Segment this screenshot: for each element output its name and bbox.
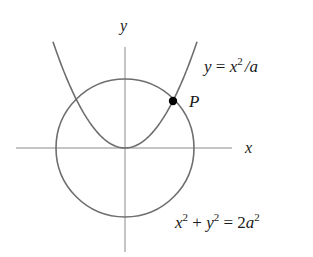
circle-eq-a-exponent: 2 [254, 211, 260, 223]
parabola-equation-label: y = x2/a [202, 55, 258, 76]
parabola-eq-x-exponent: 2 [237, 55, 243, 67]
circle-eq-plus: + [188, 213, 206, 232]
circle-eq-equals: = 2 [219, 213, 246, 232]
y-axis-label: y [118, 17, 128, 35]
parabola-eq-a: a [249, 57, 258, 76]
intersection-point-p [169, 97, 177, 105]
x-axis-label: x [244, 139, 252, 156]
circle-parabola-diagram: y x P y = x2/a x2 + y2 = 2a2 [0, 0, 313, 257]
circle-eq-a: a [246, 213, 255, 232]
point-p-label: P [188, 92, 199, 111]
circle-eq-y: y [204, 213, 214, 232]
parabola-eq-equals: = [212, 57, 230, 76]
circle-equation-label: x2 + y2 = 2a2 [174, 211, 260, 232]
parabola-eq-y: y [202, 57, 212, 76]
